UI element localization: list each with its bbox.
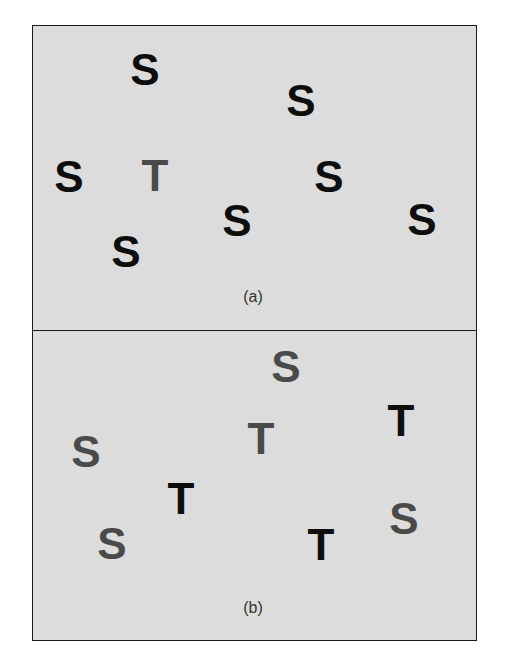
- letter-s-dark: S: [111, 230, 140, 274]
- caption-b: (b): [243, 599, 263, 617]
- panel-b: [32, 330, 477, 641]
- letter-s-dark: S: [222, 199, 251, 243]
- letter-s-dark: S: [130, 48, 159, 92]
- caption-a: (a): [243, 288, 263, 306]
- letter-t-dark: T: [168, 477, 195, 521]
- letter-t-dark: T: [308, 523, 335, 567]
- letter-t-gray: T: [248, 417, 275, 461]
- letter-s-dark: S: [407, 198, 436, 242]
- letter-s-gray: S: [271, 345, 300, 389]
- letter-s-dark: S: [286, 79, 315, 123]
- letter-t-gray: T: [142, 154, 169, 198]
- letter-s-gray: S: [71, 430, 100, 474]
- letter-t-dark: T: [388, 399, 415, 443]
- letter-s-dark: S: [314, 155, 343, 199]
- letter-s-gray: S: [389, 497, 418, 541]
- letter-s-gray: S: [97, 522, 126, 566]
- panel-a: [32, 25, 477, 332]
- letter-s-dark: S: [54, 155, 83, 199]
